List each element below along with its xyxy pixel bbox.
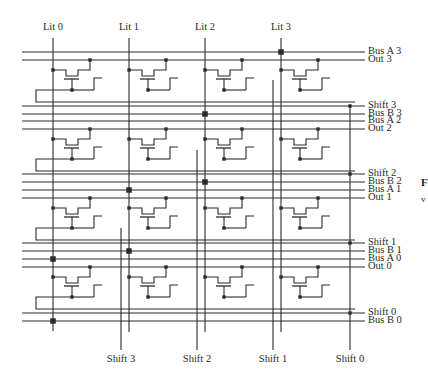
- top-label-lit-0: Lit 0: [43, 22, 63, 33]
- right-label-out-0: Out 0: [368, 261, 392, 272]
- top-label-lit-2: Lit 2: [195, 22, 215, 33]
- bottom-label-shift-1: Shift 2: [183, 354, 211, 365]
- top-label-lit-1: Lit 1: [119, 22, 139, 33]
- wiring-layer: [0, 0, 428, 386]
- circuit-diagram: Lit 0Lit 1Lit 2Lit 3Shift 3Shift 2Shift …: [0, 0, 428, 386]
- top-label-lit-3: Lit 3: [271, 22, 291, 33]
- cropped-caption-sub: v: [421, 194, 426, 204]
- right-label-out-1: Out 1: [368, 192, 392, 203]
- bottom-label-shift-3: Shift 0: [336, 354, 364, 365]
- right-label-bus-b-0: Bus B 0: [368, 315, 402, 326]
- bottom-label-shift-0: Shift 3: [107, 354, 135, 365]
- right-label-out-2: Out 2: [368, 123, 392, 134]
- cropped-caption-letter: F: [421, 176, 428, 188]
- right-label-out-3: Out 3: [368, 54, 392, 65]
- bottom-label-shift-2: Shift 1: [259, 354, 287, 365]
